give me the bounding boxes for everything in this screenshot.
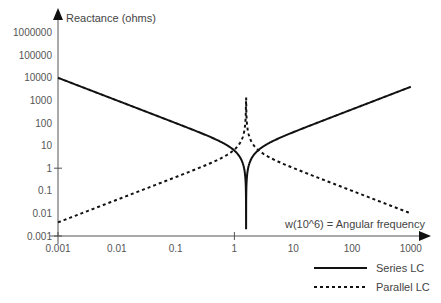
- y-tick-label: 1: [46, 163, 52, 174]
- y-axis-ticks: 0.0010.010.11101001000100001000001000000: [13, 27, 62, 241]
- x-tick-label: 10: [288, 243, 300, 254]
- legend-series-label: Series LC: [376, 262, 424, 274]
- legend-parallel-label: Parallel LC: [376, 281, 430, 293]
- x-tick-label: 0.001: [45, 243, 70, 254]
- x-axis-ticks: 0.0010.010.11101001000: [45, 232, 422, 254]
- x-tick-label: 1: [232, 243, 238, 254]
- y-tick-label: 0.01: [33, 208, 53, 219]
- x-axis-arrow-icon: [419, 231, 431, 241]
- reactance-chart: 0.0010.010.11101001000100001000001000000…: [0, 0, 441, 303]
- x-tick-label: 1000: [400, 243, 423, 254]
- y-tick-label: 10: [41, 140, 53, 151]
- x-tick-label: 0.1: [169, 243, 183, 254]
- x-tick-label: 0.01: [107, 243, 127, 254]
- y-tick-label: 0.1: [38, 185, 52, 196]
- x-tick-label: 100: [344, 243, 361, 254]
- x-axis-title: w(10^6) = Angular frequency: [284, 218, 425, 230]
- y-tick-label: 1000000: [13, 27, 52, 38]
- y-tick-label: 1000: [30, 95, 53, 106]
- y-tick-label: 0.001: [27, 231, 52, 242]
- y-axis-title: Reactance (ohms): [66, 12, 156, 24]
- legend: Series LC Parallel LC: [314, 262, 430, 293]
- y-axis-arrow-icon: [53, 8, 63, 20]
- series-lc-line: [58, 78, 411, 229]
- y-tick-label: 10000: [24, 72, 52, 83]
- y-tick-label: 100: [35, 118, 52, 129]
- y-tick-label: 100000: [19, 50, 53, 61]
- parallel-lc-line: [58, 98, 411, 223]
